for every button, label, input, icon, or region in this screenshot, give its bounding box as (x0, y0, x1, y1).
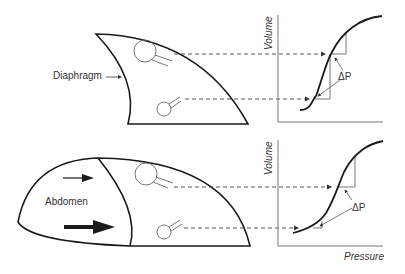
bottom-delta-arrow-upper (345, 190, 352, 200)
bottom-volume-label: Volume (263, 141, 274, 175)
bottom-delta-arrow-lower (320, 208, 352, 226)
top-delta-arrow-upper (335, 58, 343, 70)
abdomen-small-arrow-icon (63, 174, 94, 182)
top-lung-shape (96, 34, 248, 124)
bottom-small-alveolus (157, 220, 182, 239)
diaphragm-label: Diaphragm (53, 70, 102, 81)
abdomen-large-arrow-icon (64, 220, 115, 234)
bottom-pv-curve (293, 141, 383, 233)
top-small-alveolus (157, 97, 181, 116)
abdomen-label: Abdomen (45, 196, 88, 207)
bottom-delta-p-label: ΔP (352, 202, 366, 213)
diagram-svg: Diaphragm Volume ΔP Abdomen (0, 0, 405, 274)
top-pv-curve (300, 16, 382, 110)
diagram-canvas: Diaphragm Volume ΔP Abdomen (0, 0, 405, 274)
top-volume-label: Volume (263, 16, 274, 50)
pressure-label: Pressure (344, 251, 384, 262)
top-large-alveolus (134, 40, 172, 66)
